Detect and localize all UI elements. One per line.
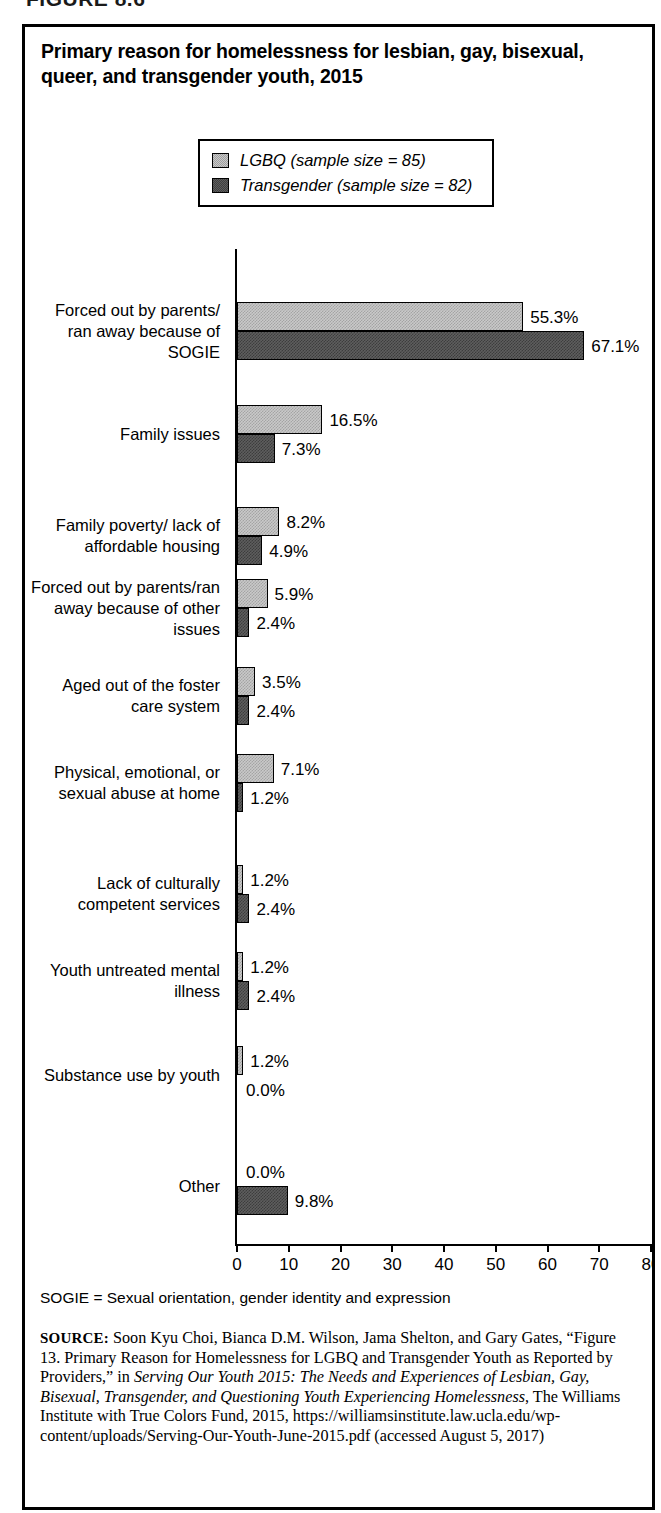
- x-axis-tick: [443, 1244, 445, 1252]
- figure-box: Primary reason for homelessness for lesb…: [22, 24, 655, 1510]
- bar-transgender: [237, 1186, 288, 1215]
- x-axis-tick: [547, 1244, 549, 1252]
- bar-transgender: [237, 608, 249, 637]
- category-label: Forced out by parents/ranaway because of…: [22, 577, 220, 640]
- category-label: Family issues: [22, 424, 220, 445]
- x-axis-tick: [288, 1244, 290, 1252]
- bar-value-transgender: 2.4%: [256, 901, 295, 918]
- x-axis-tick-label: 40: [424, 1255, 464, 1275]
- bar-value-transgender: 2.4%: [256, 703, 295, 720]
- bar-value-lgbq: 3.5%: [262, 674, 301, 691]
- category-label: Aged out of the fostercare system: [22, 675, 220, 717]
- x-axis-tick-label: 50: [476, 1255, 516, 1275]
- x-axis-tick: [340, 1244, 342, 1252]
- bar-value-transgender: 7.3%: [282, 441, 321, 458]
- bar-transgender: [237, 894, 249, 923]
- category-label: Family poverty/ lack ofaffordable housin…: [22, 515, 220, 557]
- bar-lgbq: [237, 952, 243, 981]
- bar-lgbq: [237, 405, 322, 434]
- bar-value-lgbq: 55.3%: [530, 309, 578, 326]
- bar-value-lgbq: 0.0%: [246, 1164, 285, 1181]
- bar-lgbq: [237, 579, 268, 608]
- bar-value-lgbq: 8.2%: [286, 514, 325, 531]
- bar-transgender: [237, 434, 275, 463]
- category-label: Forced out by parents/ran away because o…: [22, 300, 220, 363]
- category-label: Physical, emotional, orsexual abuse at h…: [22, 762, 220, 804]
- plot-area: Forced out by parents/ran away because o…: [25, 27, 655, 1510]
- bar-value-lgbq: 1.2%: [250, 872, 289, 889]
- bar-value-transgender: 1.2%: [250, 790, 289, 807]
- bar-value-transgender: 0.0%: [246, 1082, 285, 1099]
- bar-lgbq: [237, 507, 279, 536]
- category-label: Other: [22, 1176, 220, 1197]
- x-axis-tick: [650, 1244, 652, 1252]
- category-label: Youth untreated mentalillness: [22, 960, 220, 1002]
- x-axis-tick-label: 10: [269, 1255, 309, 1275]
- category-label: Substance use by youth: [22, 1065, 220, 1086]
- x-axis-tick-label: 0: [217, 1255, 257, 1275]
- x-axis-tick-label: 70: [579, 1255, 619, 1275]
- bar-value-transgender: 2.4%: [256, 615, 295, 632]
- y-axis-line: [235, 249, 237, 1244]
- bar-lgbq: [237, 302, 523, 331]
- x-axis-tick-label: 30: [372, 1255, 412, 1275]
- bar-value-lgbq: 1.2%: [250, 959, 289, 976]
- bar-lgbq: [237, 865, 243, 894]
- source-citation: SOURCE: Soon Kyu Choi, Bianca D.M. Wilso…: [40, 1329, 640, 1447]
- footnote-sogie: SOGIE = Sexual orientation, gender ident…: [40, 1289, 451, 1307]
- bar-value-transgender: 2.4%: [256, 988, 295, 1005]
- x-axis-tick-label: 60: [528, 1255, 568, 1275]
- figure-number-heading: FIGURE 8.6: [26, 0, 145, 11]
- bar-transgender: [237, 331, 584, 360]
- bar-value-transgender: 67.1%: [591, 338, 639, 355]
- source-label: SOURCE:: [40, 1330, 109, 1346]
- bar-value-transgender: 4.9%: [269, 543, 308, 560]
- bar-transgender: [237, 981, 249, 1010]
- bar-value-transgender: 9.8%: [295, 1193, 334, 1210]
- bar-lgbq: [237, 1046, 243, 1075]
- bar-value-lgbq: 1.2%: [250, 1053, 289, 1070]
- bar-transgender: [237, 696, 249, 725]
- bar-lgbq: [237, 754, 274, 783]
- x-axis-tick: [598, 1244, 600, 1252]
- x-axis-tick-label: 20: [321, 1255, 361, 1275]
- bar-transgender: [237, 783, 243, 812]
- bar-value-lgbq: 7.1%: [281, 761, 320, 778]
- x-axis-tick: [495, 1244, 497, 1252]
- bar-value-lgbq: 16.5%: [329, 412, 377, 429]
- x-axis-tick: [236, 1244, 238, 1252]
- bar-value-lgbq: 5.9%: [275, 586, 314, 603]
- x-axis-tick: [391, 1244, 393, 1252]
- bar-lgbq: [237, 667, 255, 696]
- x-axis-tick-label: 80: [631, 1255, 655, 1275]
- category-label: Lack of culturallycompetent services: [22, 873, 220, 915]
- bar-transgender: [237, 536, 262, 565]
